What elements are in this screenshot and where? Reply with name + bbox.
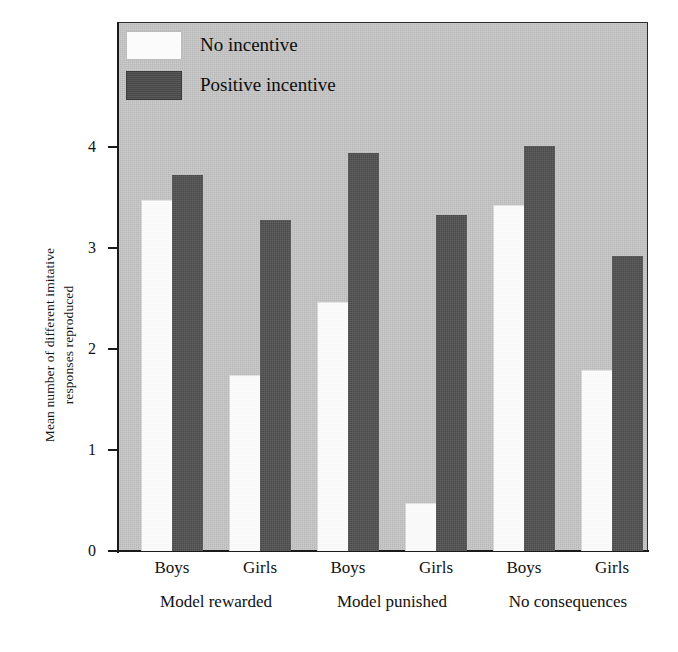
bar-model-punished-boys-no-incentive bbox=[317, 302, 348, 551]
bar-no-consequences-girls-no-incentive bbox=[581, 370, 612, 551]
x-tick-label-4: Boys bbox=[507, 558, 542, 578]
legend-swatch-icon-positive-incentive bbox=[126, 71, 182, 100]
bar-model-rewarded-girls-positive-incentive bbox=[260, 220, 291, 551]
x-tick-label-1: Girls bbox=[243, 558, 277, 578]
bar-model-rewarded-boys-positive-incentive bbox=[172, 175, 203, 551]
bar-model-rewarded-boys-no-incentive bbox=[141, 200, 172, 551]
legend: No incentive Positive incentive bbox=[126, 28, 376, 108]
y-tick-label-0: 0 bbox=[36, 542, 96, 560]
bar-no-consequences-girls-positive-incentive bbox=[612, 256, 643, 551]
group-label-no-consequences: No consequences bbox=[509, 592, 628, 612]
legend-label-no-incentive: No incentive bbox=[200, 34, 298, 56]
bar-model-punished-girls-positive-incentive bbox=[436, 215, 467, 551]
y-tick-label-4: 4 bbox=[36, 138, 96, 156]
x-tick-label-5: Girls bbox=[595, 558, 629, 578]
x-tick-label-3: Girls bbox=[419, 558, 453, 578]
y-tick-label-3: 3 bbox=[36, 239, 96, 257]
group-label-model-rewarded: Model rewarded bbox=[160, 592, 272, 612]
bar-no-consequences-boys-no-incentive bbox=[493, 205, 524, 551]
x-tick-label-2: Boys bbox=[331, 558, 366, 578]
legend-item-positive-incentive: Positive incentive bbox=[126, 68, 376, 102]
bar-model-punished-girls-no-incentive bbox=[405, 503, 436, 551]
bar-no-consequences-boys-positive-incentive bbox=[524, 146, 555, 551]
group-label-model-punished: Model punished bbox=[337, 592, 447, 612]
bar-model-rewarded-girls-no-incentive bbox=[229, 375, 260, 551]
x-tick-label-0: Boys bbox=[155, 558, 190, 578]
y-tick-label-2: 2 bbox=[36, 340, 96, 358]
bar-model-punished-boys-positive-incentive bbox=[348, 153, 379, 551]
legend-label-positive-incentive: Positive incentive bbox=[200, 74, 336, 96]
bar-chart-figure: Mean number of different imitative respo… bbox=[0, 0, 678, 652]
legend-item-no-incentive: No incentive bbox=[126, 28, 376, 62]
y-tick-label-1: 1 bbox=[36, 441, 96, 459]
legend-swatch-icon-no-incentive bbox=[126, 31, 182, 60]
